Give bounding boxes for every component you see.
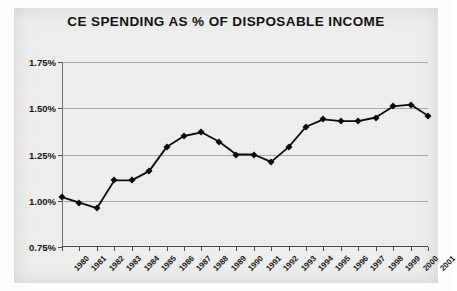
x-axis-tick: [97, 247, 98, 251]
plot-area: 0.75%1.00%1.25%1.50%1.75% 19801981198219…: [62, 62, 428, 247]
x-axis-tick: [201, 247, 202, 251]
x-axis-tick: [393, 247, 394, 251]
x-axis-tick: [289, 247, 290, 251]
x-axis-tick: [132, 247, 133, 251]
x-axis-tick: [323, 247, 324, 251]
y-axis-label: 1.25%: [29, 149, 56, 160]
x-axis-tick: [341, 247, 342, 251]
data-series-line: [62, 62, 428, 247]
y-axis-label: 1.00%: [29, 195, 56, 206]
chart-title: CE SPENDING AS % OF DISPOSABLE INCOME: [0, 14, 452, 29]
x-axis-tick: [306, 247, 307, 251]
x-axis-tick: [428, 247, 429, 251]
y-axis-label: 1.50%: [29, 103, 56, 114]
x-axis-tick: [114, 247, 115, 251]
x-axis-tick: [236, 247, 237, 251]
x-axis-tick: [376, 247, 377, 251]
x-axis-tick: [149, 247, 150, 251]
x-axis-tick: [167, 247, 168, 251]
x-axis-label: 2001: [438, 254, 457, 273]
x-axis-tick: [358, 247, 359, 251]
x-axis-tick: [271, 247, 272, 251]
x-axis-tick: [254, 247, 255, 251]
x-axis-tick: [411, 247, 412, 251]
x-axis-tick: [62, 247, 63, 251]
y-axis-label: 1.75%: [29, 57, 56, 68]
x-axis-tick: [184, 247, 185, 251]
x-axis-tick: [219, 247, 220, 251]
y-axis-label: 0.75%: [29, 242, 56, 253]
x-axis-tick: [79, 247, 80, 251]
